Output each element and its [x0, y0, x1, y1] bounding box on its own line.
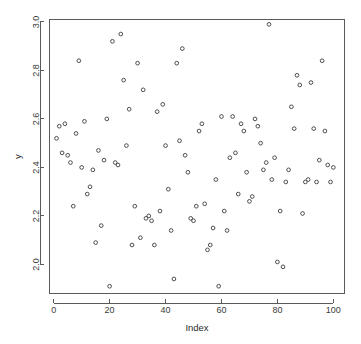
data-point — [236, 192, 240, 196]
data-point — [77, 59, 81, 63]
data-point — [166, 187, 170, 191]
data-point — [97, 149, 101, 153]
data-point — [231, 115, 235, 119]
data-point — [298, 83, 302, 87]
data-point — [306, 178, 310, 182]
data-point — [155, 110, 159, 114]
x-tick-label: 80 — [272, 305, 282, 315]
data-point — [320, 59, 324, 63]
data-point — [301, 212, 305, 216]
y-axis-title: y — [12, 154, 23, 159]
data-point — [158, 209, 162, 213]
y-tick-label: 2.6 — [31, 113, 41, 126]
data-point — [57, 124, 61, 128]
data-point — [278, 209, 282, 213]
data-point — [292, 127, 296, 131]
data-points-group — [55, 23, 336, 289]
data-point — [183, 153, 187, 157]
data-point — [276, 260, 280, 264]
data-point — [133, 204, 137, 208]
data-point — [105, 117, 109, 121]
data-point — [99, 224, 103, 228]
data-point — [63, 122, 67, 126]
data-point — [83, 119, 87, 123]
data-point — [228, 156, 232, 160]
data-point — [136, 61, 140, 65]
data-point — [141, 88, 145, 92]
data-point — [270, 178, 274, 182]
data-point — [220, 115, 224, 119]
data-point — [206, 248, 210, 252]
data-point — [329, 180, 333, 184]
data-point — [248, 200, 252, 204]
data-point — [122, 78, 126, 82]
data-point — [55, 136, 59, 140]
y-tick-label: 3.0 — [31, 16, 41, 29]
data-point — [147, 214, 151, 218]
data-point — [169, 229, 173, 233]
data-point — [256, 124, 260, 128]
data-point — [203, 202, 207, 206]
data-point — [253, 117, 257, 121]
data-point — [211, 226, 215, 230]
x-tick-label: 0 — [51, 305, 56, 315]
data-point — [323, 129, 327, 133]
data-point — [315, 180, 319, 184]
data-point — [119, 32, 123, 36]
x-tick-label: 60 — [216, 305, 226, 315]
data-point — [281, 265, 285, 269]
data-point — [102, 158, 106, 162]
scatter-plot-figure: 0204060801002.02.22.42.62.83.0Indexy — [0, 0, 361, 344]
data-point — [267, 23, 271, 27]
data-point — [178, 139, 182, 143]
y-tick-label: 2.8 — [31, 64, 41, 77]
data-point — [161, 103, 165, 107]
data-point — [217, 284, 221, 288]
y-tick-label: 2.4 — [31, 161, 41, 174]
data-point — [192, 219, 196, 223]
data-point — [200, 122, 204, 126]
data-point — [116, 163, 120, 167]
data-point — [214, 178, 218, 182]
chart-canvas: 0204060801002.02.22.42.62.83.0Indexy — [0, 0, 361, 344]
data-point — [139, 236, 143, 240]
data-point — [85, 192, 89, 196]
data-point — [153, 243, 157, 247]
data-point — [250, 195, 254, 199]
data-point — [245, 170, 249, 174]
data-point — [94, 241, 98, 245]
data-point — [197, 129, 201, 133]
data-point — [175, 61, 179, 65]
data-point — [284, 180, 288, 184]
data-point — [88, 185, 92, 189]
data-point — [295, 73, 299, 77]
data-point — [108, 284, 112, 288]
data-point — [180, 47, 184, 51]
data-point — [80, 166, 84, 170]
data-point — [234, 151, 238, 155]
data-point — [150, 219, 154, 223]
data-point — [317, 158, 321, 162]
data-point — [273, 156, 277, 160]
data-point — [290, 105, 294, 109]
data-point — [309, 81, 313, 85]
data-point — [222, 209, 226, 213]
data-point — [74, 132, 78, 136]
data-point — [287, 168, 291, 172]
data-point — [164, 144, 168, 148]
data-point — [130, 243, 134, 247]
data-point — [331, 166, 335, 170]
data-point — [186, 170, 190, 174]
data-point — [66, 153, 70, 157]
data-point — [125, 144, 129, 148]
data-point — [172, 277, 176, 281]
data-point — [262, 168, 266, 172]
x-tick-label: 100 — [326, 305, 341, 315]
data-point — [60, 151, 64, 155]
data-point — [91, 168, 95, 172]
y-tick-label: 2.0 — [31, 258, 41, 271]
data-point — [71, 204, 75, 208]
data-point — [111, 39, 115, 43]
data-point — [127, 107, 131, 111]
x-axis-title: Index — [185, 322, 208, 333]
